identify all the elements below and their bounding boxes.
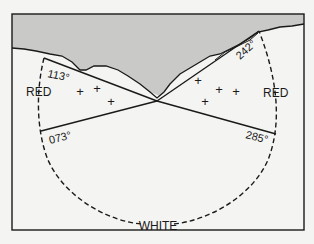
hazard-marker: + — [93, 81, 101, 96]
sector-label-red-right: RED — [263, 86, 289, 100]
hazard-marker: + — [107, 94, 115, 109]
hazard-marker: + — [215, 82, 223, 97]
hazard-marker: + — [76, 84, 84, 99]
sector-label-red-left: RED — [26, 85, 52, 99]
hazard-marker: + — [201, 94, 209, 109]
light-sector-diagram: 113° 073° 242° 285° RED RED WHITE + + + … — [0, 0, 314, 244]
sector-label-white: WHITE — [139, 219, 178, 233]
hazard-marker: + — [194, 73, 202, 88]
hazard-marker: + — [232, 84, 240, 99]
